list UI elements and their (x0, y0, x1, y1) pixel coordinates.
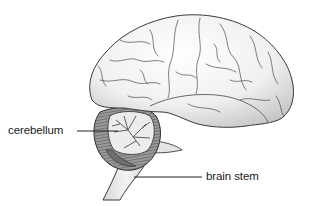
brain-stem-label: brain stem (206, 170, 259, 182)
cerebellum (94, 107, 161, 170)
brain-diagram (0, 0, 309, 206)
cerebellum-label: cerebellum (8, 124, 63, 136)
